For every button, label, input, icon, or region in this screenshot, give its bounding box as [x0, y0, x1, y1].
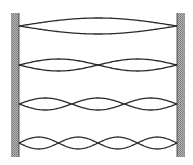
- wave-harmonic-3-upper: [19, 98, 177, 110]
- wave-modes: [19, 18, 177, 149]
- wave-harmonic-4-lower: [19, 137, 177, 149]
- wave-harmonic-3-lower: [19, 98, 177, 110]
- wave-harmonic-1-upper: [19, 18, 177, 26]
- left-wall: [11, 13, 19, 157]
- right-wall: [177, 13, 185, 157]
- wave-harmonic-1-lower: [19, 26, 177, 34]
- standing-waves-diagram: [0, 0, 193, 165]
